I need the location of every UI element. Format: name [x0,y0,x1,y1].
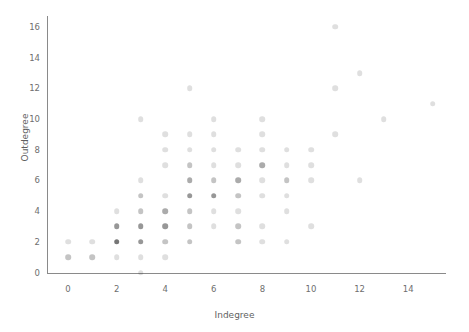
data-point [187,239,193,245]
data-point [235,239,241,245]
data-point [260,193,266,199]
data-point [284,193,290,199]
data-point [308,178,314,184]
data-point [333,24,339,30]
scatter-chart-figure: 0246810121416 02468101214 Indegree Outde… [0,0,469,332]
data-point [114,254,120,260]
data-point [284,178,290,184]
data-point [211,162,217,168]
data-point [308,162,314,168]
data-point [138,193,144,199]
x-tick-label: 6 [200,284,228,294]
data-point [235,178,241,184]
data-point [138,239,144,245]
data-point [211,224,217,230]
x-tick-label: 12 [346,284,374,294]
data-point [284,239,290,245]
plot-area: 0246810121416 02468101214 [0,0,469,332]
data-point [430,101,436,107]
x-tick-label: 4 [151,284,179,294]
data-point [235,193,241,199]
data-point [284,208,290,214]
data-point [187,208,193,214]
x-axis-line [47,273,446,274]
data-point [235,224,241,230]
data-point [284,162,290,168]
data-point [90,254,96,260]
x-axis-title: Indegree [0,310,469,320]
x-tick-label: 10 [297,284,325,294]
data-point [260,178,266,184]
data-point [162,254,168,260]
data-point [138,224,144,230]
data-point [308,224,314,230]
data-point [65,239,71,245]
x-tick-label: 2 [103,284,131,294]
data-point [211,147,217,153]
data-point [162,224,168,230]
y-axis-line [47,16,48,274]
data-point [211,132,217,138]
data-point [114,224,120,230]
data-point [381,116,387,122]
y-tick-label: 2 [12,237,40,247]
data-point [162,193,168,199]
data-point [211,193,217,199]
data-point [138,254,144,260]
data-point [162,239,168,245]
data-point [235,147,241,153]
data-point [187,132,193,138]
x-tick-label: 0 [54,284,82,294]
y-axis-title: Outdegree [20,114,30,162]
data-point [260,162,266,168]
data-point [65,254,71,260]
data-point [138,116,144,122]
data-point [235,208,241,214]
x-tick-label: 8 [248,284,276,294]
y-tick-label: 0 [12,268,40,278]
data-point [162,208,168,214]
data-point [357,178,363,184]
data-point [260,239,266,245]
data-point [90,239,96,245]
data-point [187,86,193,92]
data-point [187,224,193,230]
data-point [308,147,314,153]
data-point [138,178,144,184]
data-point [357,70,363,76]
data-point [114,208,120,214]
data-point [162,132,168,138]
data-point [284,147,290,153]
data-point [333,86,339,92]
data-point [260,224,266,230]
data-point [187,147,193,153]
data-point [260,132,266,138]
data-point [235,162,241,168]
data-point [211,178,217,184]
data-point [187,178,193,184]
data-point [162,147,168,153]
data-point [260,147,266,153]
data-point [138,208,144,214]
y-tick-label: 16 [12,22,40,32]
data-point [162,162,168,168]
x-tick-label: 14 [394,284,422,294]
data-point [211,116,217,122]
data-point [114,239,120,245]
data-point [211,208,217,214]
data-point [187,193,193,199]
data-point [333,132,339,138]
y-axis-title-wrapper: Outdegree [13,38,32,238]
data-point [187,162,193,168]
data-point [260,116,266,122]
